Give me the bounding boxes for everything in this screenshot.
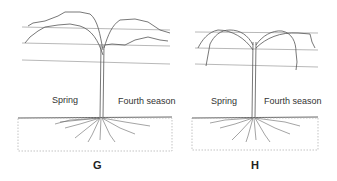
cane-h-4 <box>256 33 315 48</box>
figure-label-g: G <box>93 159 102 171</box>
trunk-h <box>252 42 256 118</box>
figure-g <box>18 12 172 151</box>
roots-h <box>210 118 300 142</box>
trellis-wires-g <box>22 27 170 64</box>
fourth-season-label-h: Fourth season <box>264 96 322 106</box>
roots-g <box>55 118 150 142</box>
trunk-g <box>100 45 104 118</box>
spring-label-h: Spring <box>211 96 237 106</box>
fourth-season-label-g: Fourth season <box>118 96 176 106</box>
ground-line-g <box>18 117 172 118</box>
cane-h-2 <box>198 30 253 50</box>
figure-h <box>192 30 318 150</box>
soil-box-g <box>18 118 172 151</box>
trellis-wires-h <box>195 32 318 67</box>
figure-label-h: H <box>251 159 259 171</box>
cane-h-3 <box>256 31 297 70</box>
spring-label-g: Spring <box>52 95 78 105</box>
cane-right-upper-g <box>104 19 170 48</box>
vine-training-diagram <box>0 0 337 181</box>
cane-right-lower-g <box>105 37 168 45</box>
